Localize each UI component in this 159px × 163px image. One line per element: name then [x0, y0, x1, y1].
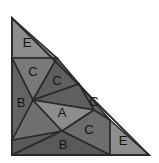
piece-label-b: B: [59, 137, 68, 152]
piece-label-c: C: [28, 64, 37, 79]
piece-label-a: A: [58, 105, 67, 120]
triangle-dissection-diagram: ECCBACCBE: [0, 0, 159, 163]
piece-label-e: E: [119, 133, 128, 148]
piece-label-e: E: [23, 35, 32, 50]
piece-label-c: C: [52, 73, 61, 88]
piece-label-c: C: [84, 122, 93, 137]
figure-root: ECCBACCBE: [0, 0, 159, 163]
piece-label-b: B: [17, 95, 26, 110]
piece-label-c: C: [89, 94, 98, 109]
